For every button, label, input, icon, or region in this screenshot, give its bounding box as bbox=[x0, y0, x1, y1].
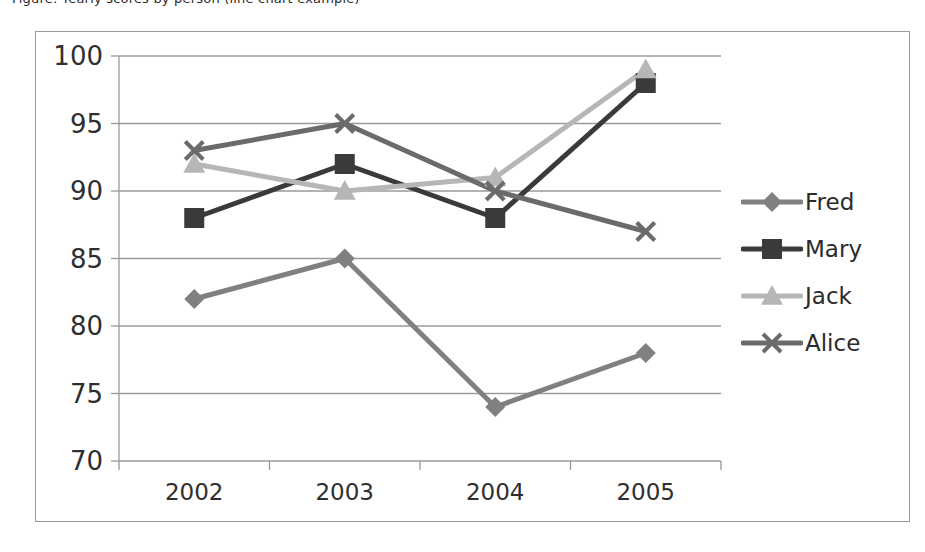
x-axis-tick-label: 2003 bbox=[270, 479, 420, 505]
data-point-square bbox=[762, 239, 782, 259]
legend-item-fred[interactable]: Fred bbox=[741, 182, 854, 222]
legend-key-diamond-icon bbox=[741, 185, 803, 219]
legend-item-mary[interactable]: Mary bbox=[741, 229, 862, 269]
legend-item-alice[interactable]: Alice bbox=[741, 323, 860, 363]
legend-key-square-icon bbox=[741, 232, 803, 266]
y-axis-tick-label: 70 bbox=[33, 446, 103, 476]
x-axis-tick-label: 2004 bbox=[420, 479, 570, 505]
data-point-square bbox=[485, 208, 505, 228]
data-point-triangle bbox=[635, 59, 657, 79]
figure-caption-text: Figure: Yearly scores by person (line ch… bbox=[0, 0, 925, 6]
y-axis-tick-label: 80 bbox=[33, 311, 103, 341]
series-line-jack bbox=[194, 70, 646, 192]
legend-key-triangle-icon bbox=[741, 279, 803, 313]
series-line-mary bbox=[194, 83, 646, 218]
legend-label: Jack bbox=[805, 283, 852, 309]
legend-label: Fred bbox=[805, 189, 854, 215]
legend-item-jack[interactable]: Jack bbox=[741, 276, 852, 316]
x-axis-tick-label: 2002 bbox=[119, 479, 269, 505]
y-axis-tick-label: 75 bbox=[33, 379, 103, 409]
legend-label: Alice bbox=[805, 330, 860, 356]
y-axis-tick-label: 90 bbox=[33, 176, 103, 206]
series-line-fred bbox=[194, 259, 646, 408]
y-axis-tick-label: 100 bbox=[33, 41, 103, 71]
data-point-diamond bbox=[762, 192, 782, 212]
data-point-diamond bbox=[636, 343, 656, 363]
legend-key-x-icon bbox=[741, 326, 803, 360]
x-axis-tick-label: 2005 bbox=[571, 479, 721, 505]
line-chart: Figure: Yearly scores by person (line ch… bbox=[0, 0, 925, 552]
data-point-diamond bbox=[184, 289, 204, 309]
data-point-square bbox=[184, 208, 204, 228]
y-axis-tick-label: 95 bbox=[33, 109, 103, 139]
y-axis-tick-label: 85 bbox=[33, 244, 103, 274]
data-point-square bbox=[335, 154, 355, 174]
legend-label: Mary bbox=[805, 236, 862, 262]
figure-caption: Figure: Yearly scores by person (line ch… bbox=[0, 0, 925, 7]
chart-frame: 7075808590951002002200320042005 FredMary… bbox=[35, 31, 910, 522]
